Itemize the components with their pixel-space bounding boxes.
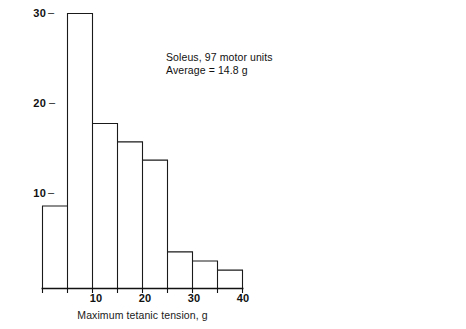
histogram-figure: Number of motor units 30 – 20 – 10 – 10 … <box>0 0 466 329</box>
axis-lines <box>42 289 244 294</box>
plot-area <box>0 0 466 329</box>
histogram-bars <box>43 14 243 289</box>
